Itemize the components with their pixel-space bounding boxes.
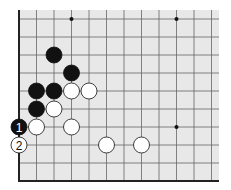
black-stone[interactable] xyxy=(29,101,45,117)
white-stone[interactable] xyxy=(99,137,115,153)
black-stone[interactable] xyxy=(46,47,62,63)
white-stone[interactable] xyxy=(29,119,45,135)
black-stone[interactable] xyxy=(29,83,45,99)
move-number-label: 1 xyxy=(16,121,23,135)
white-stone[interactable] xyxy=(64,83,80,99)
black-stone[interactable] xyxy=(64,65,80,81)
white-stone[interactable] xyxy=(134,137,150,153)
star-point xyxy=(175,17,179,21)
star-point xyxy=(175,125,179,129)
go-board[interactable]: 12 xyxy=(0,0,231,190)
white-stone[interactable] xyxy=(64,119,80,135)
white-stone[interactable] xyxy=(46,101,62,117)
black-stone[interactable] xyxy=(46,83,62,99)
move-number-label: 2 xyxy=(16,139,23,153)
white-stone[interactable] xyxy=(81,83,97,99)
star-point xyxy=(70,17,74,21)
